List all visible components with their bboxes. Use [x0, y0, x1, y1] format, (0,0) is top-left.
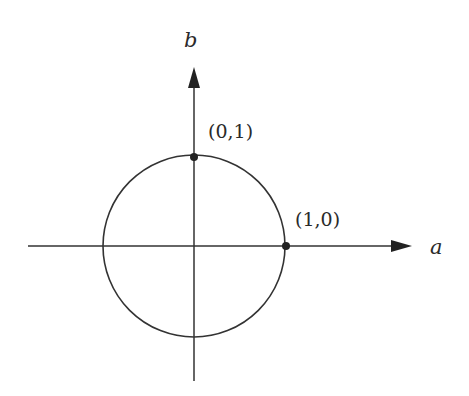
diagram-canvas: b a (0,1) (1,0): [0, 0, 469, 396]
point-0-1-label: (0,1): [208, 122, 253, 141]
diagram-svg: [0, 0, 469, 396]
b-axis-arrow-icon: [188, 67, 200, 88]
point-1-0-label: (1,0): [295, 210, 340, 229]
point-0-1: [190, 153, 198, 161]
a-axis-label: a: [430, 237, 443, 258]
b-axis-label: b: [184, 30, 197, 51]
point-1-0: [282, 242, 290, 250]
a-axis-arrow-icon: [391, 240, 412, 252]
